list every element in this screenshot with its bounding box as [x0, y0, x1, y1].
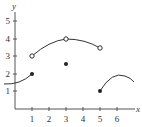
- x-axis-label: x: [135, 104, 140, 114]
- svg-text:4: 4: [81, 114, 86, 124]
- svg-text:2: 2: [6, 69, 11, 79]
- svg-text:6: 6: [115, 114, 120, 124]
- svg-text:2: 2: [47, 114, 52, 124]
- svg-text:1: 1: [6, 86, 11, 96]
- closed-point-1-2: [30, 72, 34, 76]
- svg-text:1: 1: [30, 114, 35, 124]
- closed-point-3-2.5: [64, 62, 68, 66]
- open-point-1-3: [30, 54, 34, 58]
- open-point-3-4: [64, 37, 68, 41]
- svg-text:5: 5: [6, 16, 11, 26]
- svg-text:4: 4: [6, 34, 11, 44]
- svg-text:5: 5: [98, 114, 103, 124]
- svg-text:3: 3: [6, 51, 11, 61]
- x-tick-labels: 1 2 3 4 5 6: [30, 114, 120, 124]
- y-axis-label: y: [11, 1, 16, 11]
- svg-text:3: 3: [64, 114, 69, 124]
- closed-point-5-1: [98, 89, 102, 93]
- right-curve: [100, 75, 134, 91]
- piecewise-function-chart: x y 1 2 3 4 5 6 1 2 3 4 5: [0, 0, 142, 127]
- open-point-5-3.5: [98, 46, 102, 50]
